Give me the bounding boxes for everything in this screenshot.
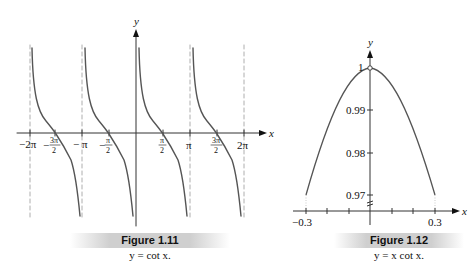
svg-text:2: 2: [106, 146, 110, 155]
svg-text:−: −: [43, 139, 49, 151]
svg-text:3π: 3π: [212, 136, 220, 145]
x-axis-label: x: [461, 205, 467, 217]
figure-title: Figure 1.11: [70, 233, 230, 248]
svg-text:2: 2: [214, 146, 218, 155]
y-axis-arrow: [367, 50, 373, 58]
y-axis-arrow: [133, 29, 139, 37]
figure-title: Figure 1.12: [334, 233, 464, 248]
svg-text:π: π: [106, 136, 110, 145]
x-tick-0.3: 0.3: [428, 216, 442, 228]
y-tick-1: 1: [358, 61, 364, 73]
tick-label-neg-pi: − π: [73, 138, 88, 150]
open-circle: [368, 66, 372, 70]
figure-caption: y = cot x.: [70, 249, 230, 262]
caption-fig-1-12: Figure 1.12 y = x cot x.: [334, 233, 464, 262]
tick-label-neg-2pi: −2π: [19, 138, 37, 150]
xcotx-plot: y x 1 0.99 0.98 0.97 −0.3 0.3: [292, 36, 467, 228]
figure-caption: y = x cot x.: [334, 249, 464, 262]
y-axis-label: y: [367, 36, 373, 48]
svg-text:−: −: [99, 139, 105, 151]
x-axis-arrow: [259, 130, 267, 136]
x-axis-arrow: [452, 208, 460, 214]
tick-label-pi: π: [186, 139, 192, 151]
svg-text:2: 2: [52, 146, 56, 155]
x-axis-label: x: [268, 127, 274, 139]
y-axis-label: y: [133, 15, 139, 27]
x-tick-neg-0.3: −0.3: [292, 216, 312, 228]
y-tick-0.98: 0.98: [346, 147, 366, 159]
caption-fig-1-11: Figure 1.11 y = cot x.: [70, 233, 230, 262]
tick-label-2pi: 2π: [237, 139, 249, 151]
cot-plot: y x −2π − 3π 2 − π − π 2 π 2 π 3π 2 2π: [17, 15, 274, 226]
vertical-asymptotes: [30, 45, 244, 218]
y-tick-0.97: 0.97: [346, 189, 366, 201]
svg-text:π: π: [160, 136, 164, 145]
y-tick-0.99: 0.99: [346, 104, 366, 116]
svg-text:2: 2: [160, 146, 164, 155]
svg-text:3π: 3π: [50, 136, 58, 145]
